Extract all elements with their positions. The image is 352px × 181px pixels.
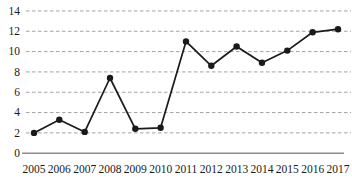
data-point-marker [56, 117, 62, 123]
data-point-marker [157, 125, 163, 131]
data-point-marker [31, 130, 37, 136]
y-axis-tick-label: 10 [9, 45, 21, 57]
data-point-marker [309, 29, 315, 35]
x-axis-tick-label: 2016 [301, 163, 324, 175]
x-axis-tick-label: 2012 [200, 163, 223, 175]
y-axis-tick-label: 4 [14, 106, 20, 118]
x-axis-tick-label: 2014 [250, 163, 273, 175]
x-axis-tick-label: 2008 [98, 163, 121, 175]
x-axis-tick-label: 2009 [124, 163, 147, 175]
y-axis-tick-label: 12 [9, 25, 21, 37]
x-axis-tick-label: 2015 [276, 163, 299, 175]
y-axis-tick-label: 8 [14, 66, 20, 78]
data-point-marker [335, 26, 341, 32]
data-point-marker [233, 43, 239, 49]
data-point-marker [183, 38, 189, 44]
x-axis-tick-label: 2005 [23, 163, 46, 175]
x-axis-tick-label: 2013 [225, 163, 248, 175]
data-point-marker [132, 126, 138, 132]
y-axis-tick-label: 14 [9, 5, 21, 17]
x-axis-tick-label: 2007 [73, 163, 96, 175]
y-axis-tick-label: 6 [14, 86, 20, 98]
data-point-marker [107, 75, 113, 81]
data-point-marker [259, 60, 265, 66]
y-axis-tick-label: 2 [14, 127, 20, 139]
x-axis-tick-label: 2011 [175, 163, 198, 175]
data-point-marker [82, 129, 88, 135]
line-chart-canvas: 0246810121420052006200720082009201020112… [0, 0, 352, 181]
data-point-marker [284, 47, 290, 53]
line-chart: 0246810121420052006200720082009201020112… [0, 0, 352, 181]
x-axis-tick-label: 2010 [149, 163, 172, 175]
x-axis-tick-label: 2017 [326, 163, 349, 175]
data-line [34, 29, 338, 133]
y-axis-tick-label: 0 [14, 147, 20, 159]
x-axis-tick-label: 2006 [48, 163, 71, 175]
data-point-marker [208, 63, 214, 69]
